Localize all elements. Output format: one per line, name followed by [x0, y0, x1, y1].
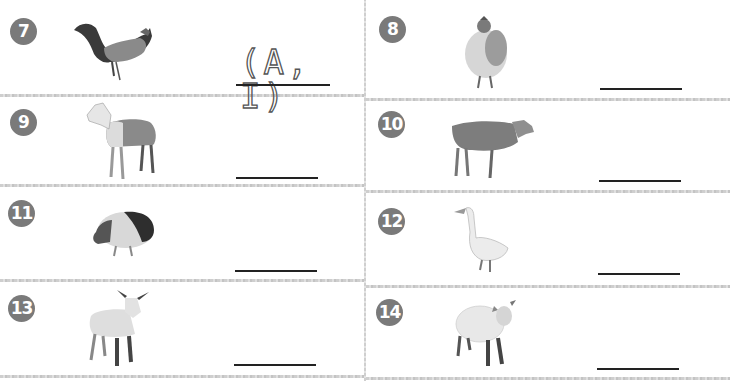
dotted-trace-answer: (A, I): [240, 45, 310, 113]
row-divider: [0, 279, 364, 282]
row-divider: [366, 190, 730, 193]
goat-image: [85, 288, 155, 368]
row-divider: [0, 184, 364, 187]
pig-image: [88, 210, 158, 260]
item-number-badge: 8: [379, 16, 406, 43]
item-number-badge: 14: [376, 299, 403, 326]
item-number-badge: 12: [378, 208, 405, 235]
row-divider: [366, 285, 730, 288]
hen-image: [462, 16, 512, 92]
item-number-badge: 11: [8, 200, 35, 227]
answer-line[interactable]: [236, 84, 330, 86]
answer-line[interactable]: [598, 273, 680, 275]
answer-line[interactable]: [597, 368, 679, 370]
goose-image: [452, 202, 517, 274]
item-number-badge: 9: [10, 109, 37, 136]
item-number-badge: 7: [10, 18, 37, 45]
cow-image: [448, 116, 538, 182]
answer-line[interactable]: [235, 270, 317, 272]
row-divider: [366, 98, 730, 101]
row-divider: [366, 377, 730, 380]
row-divider: [0, 375, 364, 378]
rooster-image: [70, 18, 155, 83]
answer-line[interactable]: [234, 364, 316, 366]
answer-line[interactable]: [600, 88, 682, 90]
answer-line[interactable]: [236, 177, 318, 179]
item-number-badge: 13: [8, 295, 35, 322]
answer-line[interactable]: [599, 180, 681, 182]
sheep-image: [452, 300, 522, 370]
horse-image: [85, 101, 160, 181]
item-number-badge: 10: [378, 111, 405, 138]
